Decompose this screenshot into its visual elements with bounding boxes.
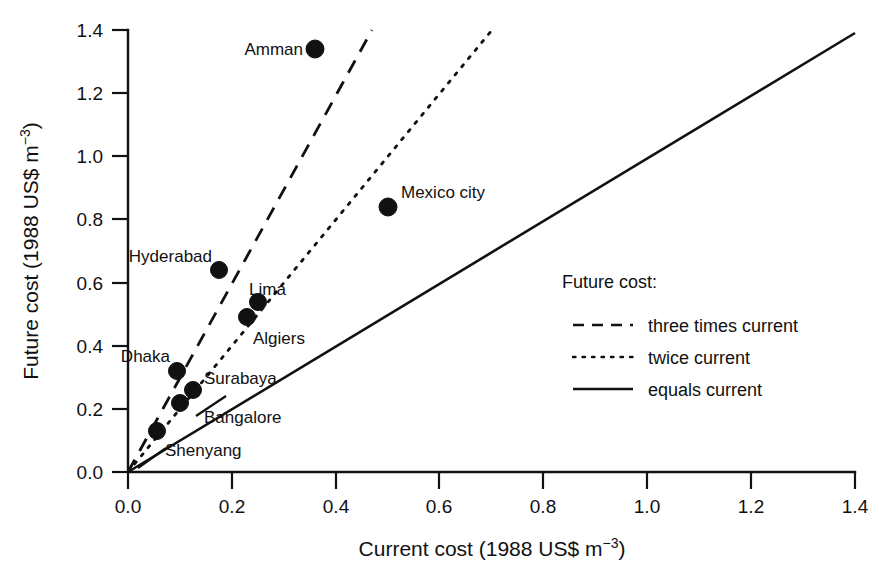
svg-text:Future cost (1988 US$ m−3): Future cost (1988 US$ m−3) [17,122,42,380]
reference-lines [128,30,855,472]
data-point-mexico-city[interactable] [379,198,397,216]
data-label-dhaka: Dhaka [121,347,171,366]
data-point-amman[interactable] [306,40,324,58]
legend-entry-twice-current[interactable]: twice current [573,348,750,368]
data-label-amman: Amman [244,40,303,59]
data-label-lima: Lima [249,280,286,299]
y-tick-label: 1.0 [77,146,103,167]
x-axis-title: Current cost (1988 US$ m−3) [359,535,626,560]
y-tick-label: 0.4 [77,336,104,357]
y-axis-title: Future cost (1988 US$ m−3) [17,122,42,380]
data-label-bangalore: Bangalore [204,408,282,427]
data-point-shenyang[interactable] [149,423,166,440]
x-tick-label: 0.0 [115,496,141,517]
x-axis-title-main: Current cost (1988 US$ m [359,537,603,560]
data-point-bangalore[interactable] [172,395,189,412]
data-point-surabaya[interactable] [185,382,202,399]
data-label-mexico-city: Mexico city [401,183,486,202]
data-label-shenyang: Shenyang [165,441,242,460]
legend-label-equals-current: equals current [648,380,762,400]
data-point-hyderabad[interactable] [211,262,228,279]
x-tick-label: 0.8 [530,496,556,517]
x-tick-label: 0.4 [323,496,350,517]
x-tick-label: 1.4 [842,496,869,517]
legend-entry-three-times-current[interactable]: three times current [573,316,798,336]
svg-text:Current cost (1988 US$ m−3): Current cost (1988 US$ m−3) [359,535,626,560]
y-tick-label: 0.6 [77,273,103,294]
y-axis-tick-labels: 0.0 0.2 0.4 0.6 0.8 1.0 1.2 1.4 [77,20,104,483]
y-tick-label: 0.8 [77,209,103,230]
x-axis-tick-labels: 0.0 0.2 0.4 0.6 0.8 1.0 1.2 1.4 [115,496,869,517]
x-tick-label: 1.0 [634,496,660,517]
legend-entry-equals-current[interactable]: equals current [573,380,762,400]
x-tick-label: 0.6 [426,496,452,517]
y-tick-label: 1.4 [77,20,104,41]
legend-label-twice-current: twice current [648,348,750,368]
plot-canvas: 0.0 0.2 0.4 0.6 0.8 1.0 1.2 1.4 0.0 0.2 … [0,0,889,588]
y-axis-title-close: ) [19,122,42,129]
scatter-plot-figure: 0.0 0.2 0.4 0.6 0.8 1.0 1.2 1.4 0.0 0.2 … [0,0,889,588]
y-axis-title-main: Future cost (1988 US$ m [19,145,42,380]
reference-line-equals-current [128,33,855,472]
data-label-surabaya: Surabaya [204,369,277,388]
legend-label-three-times-current: three times current [648,316,798,336]
data-point-dhaka[interactable] [169,363,186,380]
legend: Future cost: three times current twice c… [562,272,798,400]
y-axis-ticks [112,30,128,472]
x-axis-title-close: ) [618,537,625,560]
y-tick-label: 0.2 [77,399,103,420]
legend-heading: Future cost: [562,272,657,292]
data-point-algiers[interactable] [239,309,256,326]
leader-line-shenyang [138,448,166,468]
x-axis-ticks [128,472,855,489]
x-axis-title-exponent: −3 [602,535,618,551]
x-tick-label: 1.2 [738,496,764,517]
x-tick-label: 0.2 [219,496,245,517]
y-tick-label: 1.2 [77,83,103,104]
y-tick-label: 0.0 [77,462,103,483]
data-label-hyderabad: Hyderabad [129,247,212,266]
data-label-algiers: Algiers [253,329,305,348]
y-axis-title-exponent: −3 [17,129,33,145]
